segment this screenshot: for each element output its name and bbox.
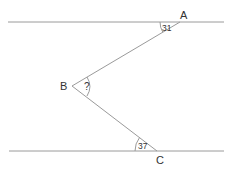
point-label-c: C xyxy=(156,154,164,166)
diagram-canvas: A B C 31 ? 37 xyxy=(0,0,231,173)
point-label-b: B xyxy=(60,80,67,92)
angle-value-b: ? xyxy=(84,81,90,92)
angle-value-c: 37 xyxy=(138,141,148,151)
angle-value-a: 31 xyxy=(162,23,172,33)
point-label-a: A xyxy=(180,9,188,21)
